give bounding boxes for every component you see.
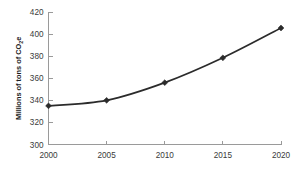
y-tick-label: 340 [30,96,44,105]
line-chart: 300320340360380400420 200020052010201520… [0,0,295,171]
x-tick-label: 2010 [156,151,175,160]
y-tick-label: 300 [30,141,44,150]
chart-background [0,0,295,171]
svg-text:Millions of tons of CO2e: Millions of tons of CO2e [14,37,24,121]
x-tick-label: 2015 [214,151,233,160]
y-axis-title: Millions of tons of CO2e [14,37,24,121]
x-tick-label: 2000 [39,151,58,160]
x-tick-label: 2005 [98,151,117,160]
y-tick-label: 360 [30,74,44,83]
chart-container: 300320340360380400420 200020052010201520… [0,0,295,171]
y-tick-label: 420 [30,8,44,17]
y-tick-label: 380 [30,52,44,61]
y-tick-label: 320 [30,118,44,127]
y-tick-label: 400 [30,30,44,39]
x-tick-label: 2020 [272,151,291,160]
